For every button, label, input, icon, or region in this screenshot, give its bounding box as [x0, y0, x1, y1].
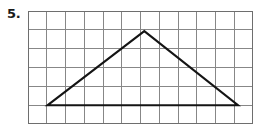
grid-svg [28, 11, 253, 124]
grid-figure [28, 11, 253, 124]
problem-number-label: 5. [7, 6, 20, 22]
figure-root: 5. [0, 0, 268, 135]
triangle-shape [48, 31, 238, 105]
